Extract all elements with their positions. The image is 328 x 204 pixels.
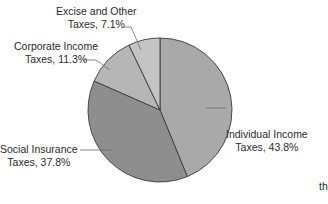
pie-chart: Individual Income Taxes, 43.8% Social In…: [0, 0, 328, 204]
pie-chart-graphic: [0, 0, 328, 204]
label-social-line2: Taxes, 37.8%: [0, 156, 78, 169]
label-individual-line2: Taxes, 43.8%: [226, 141, 308, 154]
label-excise-line2: Taxes, 7.1%: [56, 18, 137, 31]
label-excise-other: Excise and Other Taxes, 7.1%: [56, 5, 137, 31]
stray-text: th: [319, 180, 328, 192]
label-individual-line1: Individual Income: [226, 128, 308, 141]
label-corporate-line2: Taxes, 11.3%: [14, 53, 98, 66]
label-excise-line1: Excise and Other: [56, 5, 137, 18]
label-corporate-income: Corporate Income Taxes, 11.3%: [14, 40, 98, 66]
label-corporate-line1: Corporate Income: [14, 40, 98, 53]
label-social-line1: Social Insurance: [0, 143, 78, 156]
label-individual-income: Individual Income Taxes, 43.8%: [226, 128, 308, 154]
label-social-insurance: Social Insurance Taxes, 37.8%: [0, 143, 78, 169]
